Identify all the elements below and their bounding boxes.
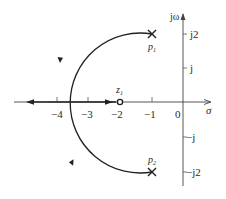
real-tick-label-neg1: −1: [144, 108, 156, 120]
imag-tick-label-neg-j: −j: [186, 131, 195, 143]
arc-arrow-lower-icon: [68, 158, 76, 166]
root-locus-diagram: −4 −3 −2 −1 0 σ jω j2 j −j −j2 z1 p1 p2: [0, 0, 226, 199]
real-tick-label-neg4: −4: [51, 108, 63, 120]
real-axis-label: σ: [206, 104, 212, 116]
locus-arc: [70, 33, 152, 173]
imag-tick-label-j2: j2: [189, 28, 199, 40]
real-tick-label-neg2: −2: [111, 108, 123, 120]
origin-label: 0: [175, 108, 181, 120]
imag-tick-label-neg-j2: −j2: [186, 166, 201, 178]
real-axis-ticks: [57, 97, 152, 102]
locus-left-arrow-icon: [26, 99, 34, 104]
pole-p2-label: p2: [147, 154, 156, 166]
real-tick-label-neg3: −3: [81, 108, 93, 120]
imag-tick-label-j: j: [189, 62, 193, 74]
zero-z1-label: z1: [115, 84, 123, 96]
pole-p1-label: p1: [147, 41, 156, 53]
zero-z1-icon: [117, 99, 122, 104]
imaginary-axis: [181, 13, 186, 186]
imag-axis-label: jω: [169, 11, 180, 22]
arc-arrow-upper-icon: [58, 57, 64, 63]
imag-axis-ticks: [183, 34, 187, 172]
locus-right-arrow-icon: [105, 99, 113, 104]
